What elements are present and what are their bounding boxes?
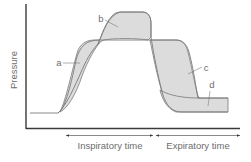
shaded-region-b: [98, 12, 151, 44]
label-d: d: [209, 79, 214, 90]
label-a: a: [56, 57, 62, 68]
inspiratory-time-label: Inspiratory time: [78, 140, 143, 151]
pressure-diagram: Pressure Inspiratory time Expiratory tim…: [0, 0, 251, 162]
expiratory-time-label: Expiratory time: [166, 140, 229, 151]
label-b: b: [98, 13, 103, 24]
shaded-region-a: [60, 40, 102, 112]
label-c: c: [204, 62, 209, 73]
y-axis-label: Pressure: [8, 51, 19, 89]
